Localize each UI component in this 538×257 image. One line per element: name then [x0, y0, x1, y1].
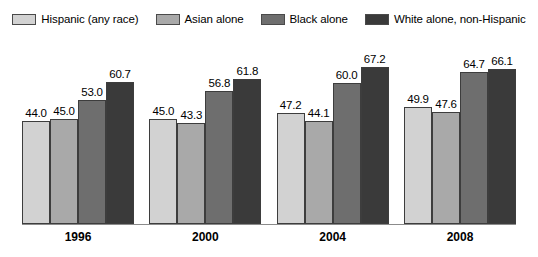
x-tick-label: 2008 — [404, 230, 516, 244]
x-axis-baseline — [22, 224, 516, 225]
bar[interactable] — [177, 123, 205, 224]
x-tick-label: 1996 — [22, 230, 134, 244]
bar[interactable] — [106, 82, 134, 224]
bar-column[interactable]: 47.2 — [277, 34, 305, 224]
bar-value-label: 60.7 — [109, 68, 131, 80]
bar-value-label: 60.0 — [336, 69, 358, 81]
bar-column[interactable]: 45.0 — [50, 34, 78, 224]
bar-value-label: 61.8 — [237, 65, 259, 77]
x-tick-label: 2004 — [277, 230, 389, 244]
bar-column[interactable]: 43.3 — [177, 34, 205, 224]
bar[interactable] — [233, 79, 261, 224]
bar-value-label: 47.2 — [280, 99, 302, 111]
bar-value-label: 43.3 — [181, 109, 203, 121]
bar-value-label: 66.1 — [491, 55, 513, 67]
bar-column[interactable]: 45.0 — [149, 34, 177, 224]
bar-column[interactable]: 66.1 — [488, 34, 516, 224]
legend-item[interactable]: Hispanic (any race) — [12, 13, 138, 25]
plot-area: 44.045.053.060.745.043.356.861.847.244.1… — [0, 34, 538, 257]
bar[interactable] — [432, 112, 460, 224]
bar-column[interactable]: 64.7 — [460, 34, 488, 224]
bar-value-label: 49.9 — [407, 93, 429, 105]
bar-groups: 44.045.053.060.745.043.356.861.847.244.1… — [22, 34, 516, 224]
bar-column[interactable]: 60.7 — [106, 34, 134, 224]
bar-column[interactable]: 67.2 — [361, 34, 389, 224]
bar-chart: Hispanic (any race)Asian aloneBlack alon… — [0, 0, 538, 257]
bar-value-label: 44.1 — [308, 107, 330, 119]
legend-item-label: White alone, non-Hispanic — [394, 13, 526, 25]
x-tick-label: 2000 — [149, 230, 261, 244]
bar[interactable] — [149, 119, 177, 224]
bar[interactable] — [333, 83, 361, 224]
bar-column[interactable]: 60.0 — [333, 34, 361, 224]
legend-swatch-icon — [261, 14, 285, 25]
legend-swatch-icon — [365, 14, 389, 25]
legend-item[interactable]: Asian alone — [156, 13, 244, 25]
chart-legend: Hispanic (any race)Asian aloneBlack alon… — [0, 8, 538, 30]
bar-group: 49.947.664.766.1 — [404, 34, 516, 224]
bar-column[interactable]: 61.8 — [233, 34, 261, 224]
bar[interactable] — [305, 121, 333, 224]
bar[interactable] — [78, 100, 106, 224]
bar[interactable] — [404, 107, 432, 224]
bar[interactable] — [277, 113, 305, 224]
bar-group: 44.045.053.060.7 — [22, 34, 134, 224]
bar[interactable] — [460, 72, 488, 224]
bar[interactable] — [22, 121, 50, 224]
bar-column[interactable]: 44.0 — [22, 34, 50, 224]
legend-swatch-icon — [12, 14, 36, 25]
bar-value-label: 45.0 — [153, 105, 175, 117]
bar-value-label: 53.0 — [81, 86, 103, 98]
bar[interactable] — [205, 91, 233, 224]
legend-swatch-icon — [156, 14, 180, 25]
x-axis-tick-labels: 1996200020042008 — [22, 230, 516, 250]
bar-value-label: 45.0 — [53, 105, 75, 117]
legend-item-label: Black alone — [290, 13, 348, 25]
bar-value-label: 64.7 — [463, 58, 485, 70]
legend-item-label: Hispanic (any race) — [41, 13, 138, 25]
bar-column[interactable]: 44.1 — [305, 34, 333, 224]
legend-item[interactable]: White alone, non-Hispanic — [365, 13, 526, 25]
bar-group: 45.043.356.861.8 — [149, 34, 261, 224]
bar-value-label: 44.0 — [25, 107, 47, 119]
legend-item[interactable]: Black alone — [261, 13, 348, 25]
bar[interactable] — [361, 67, 389, 224]
bar-column[interactable]: 49.9 — [404, 34, 432, 224]
bar-column[interactable]: 47.6 — [432, 34, 460, 224]
bar-value-label: 47.6 — [435, 98, 457, 110]
bar-column[interactable]: 53.0 — [78, 34, 106, 224]
bar[interactable] — [50, 119, 78, 224]
bar-column[interactable]: 56.8 — [205, 34, 233, 224]
bar-group: 47.244.160.067.2 — [277, 34, 389, 224]
bar-value-label: 56.8 — [209, 77, 231, 89]
legend-item-label: Asian alone — [185, 13, 244, 25]
bar-value-label: 67.2 — [364, 53, 386, 65]
bar[interactable] — [488, 69, 516, 224]
